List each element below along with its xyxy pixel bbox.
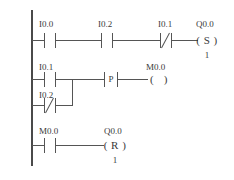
rung2-positive-edge-detector[interactable]: P [104, 72, 118, 87]
rung1-coil-set-q00[interactable]: ( S ) [194, 32, 220, 48]
rung2-coil-output-m00[interactable]: ( ) [146, 71, 172, 87]
rung1-contact2-label: I0.2 [98, 19, 112, 29]
rung1-contact-no-i00[interactable] [44, 33, 56, 48]
rung3-wire-c1-to-coil [56, 145, 104, 146]
rung3-coil-operand: 1 [102, 155, 128, 165]
rung1-wire-c1-to-c2 [56, 40, 101, 41]
ladder-diagram-canvas: I0.0 I0.2 I0.1 Q0.0 ( S ) 1 I0.1 I0.2 M0… [0, 0, 234, 180]
rung3-wire-rail-to-c1 [32, 145, 44, 146]
positive-edge-p-letter: P [104, 73, 118, 86]
rung2-wire-rail-to-c1 [32, 79, 44, 80]
rung1-coil-operand: 1 [194, 50, 220, 60]
rung1-contact3-label: I0.1 [158, 19, 172, 29]
rung2-branch-wire-rail-to-c2 [32, 105, 44, 106]
rung1-contact-nc-i01[interactable] [160, 33, 172, 48]
rung2-contact1-label: I0.1 [39, 62, 53, 72]
rung3-coil-reset-q00[interactable]: ( R ) [102, 137, 128, 153]
rung1-wire-c2-to-c3 [113, 40, 160, 41]
left-power-rail [31, 10, 33, 166]
rung2-contact-nc-i02[interactable] [44, 98, 56, 113]
rung3-contact-no-m00[interactable] [44, 138, 56, 153]
rung2-branch-wire-c2-to-join [56, 105, 73, 106]
rung2-branch-vertical-connector [72, 79, 73, 106]
rung1-contact1-label: I0.0 [39, 19, 53, 29]
rung3-contact1-label: M0.0 [39, 126, 58, 136]
rung3-coil-label: Q0.0 [104, 126, 122, 136]
rung1-contact-no-i02[interactable] [101, 33, 113, 48]
rung1-coil-label: Q0.0 [196, 19, 214, 29]
rung1-wire-rail-to-c1 [32, 40, 44, 41]
rung2-wire-c1-to-p [56, 79, 104, 80]
rung2-wire-p-to-coil [118, 79, 148, 80]
rung2-contact-no-i01[interactable] [44, 72, 56, 87]
